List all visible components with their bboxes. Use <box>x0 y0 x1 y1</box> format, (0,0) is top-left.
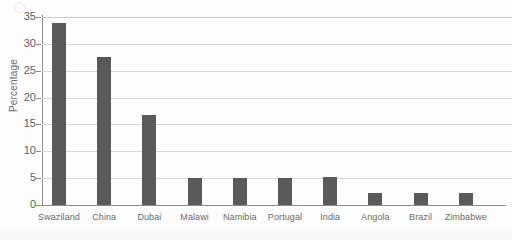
y-axis-tick-label: 15 <box>6 118 36 129</box>
bar <box>459 193 473 205</box>
bar <box>278 178 292 205</box>
y-axis-tick-mark <box>36 98 41 99</box>
y-axis-tick-label: 5 <box>6 172 36 183</box>
y-axis-tick-mark <box>36 124 41 125</box>
bar <box>368 193 382 205</box>
bar <box>52 23 66 205</box>
bar <box>142 115 156 205</box>
x-axis-category-label: Zimbabwe <box>426 212 506 222</box>
y-axis-tick-label: 20 <box>6 92 36 103</box>
scan-wash <box>0 224 512 240</box>
y-axis-tick-label: 25 <box>6 65 36 76</box>
y-axis-tick-label: 0 <box>6 199 36 210</box>
gridline <box>42 124 512 125</box>
bar <box>323 177 337 205</box>
gridline <box>42 71 512 72</box>
bar-chart: Percentage 05101520253035 SwazilandChina… <box>0 0 512 240</box>
y-axis-tick-mark <box>36 71 41 72</box>
y-axis-tick-mark <box>36 44 41 45</box>
bar <box>414 193 428 205</box>
y-axis-tick-label: 30 <box>6 38 36 49</box>
bar <box>97 57 111 205</box>
y-axis-tick-label: 10 <box>6 145 36 156</box>
y-axis-tick-label: 35 <box>6 11 36 22</box>
x-axis-line <box>36 205 506 206</box>
y-axis-tick-mark <box>36 151 41 152</box>
bar <box>233 178 247 205</box>
gridline <box>42 178 512 179</box>
gridline <box>42 98 512 99</box>
bar <box>188 178 202 205</box>
plot-area: 05101520253035 <box>42 17 512 205</box>
y-axis-tick-mark <box>36 178 41 179</box>
y-axis-title: Percentage <box>8 44 19 128</box>
gridline <box>42 44 512 45</box>
y-axis-tick-mark <box>36 17 41 18</box>
gridline <box>42 151 512 152</box>
y-axis-tick-mark <box>36 205 41 206</box>
gridline <box>42 17 512 18</box>
